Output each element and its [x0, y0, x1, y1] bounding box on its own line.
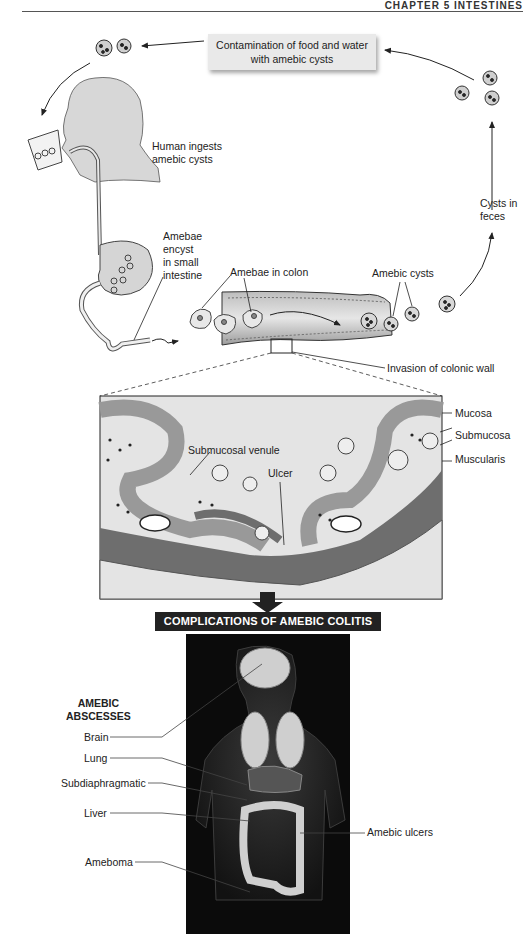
- label-ulcer: Ulcer: [268, 467, 293, 480]
- human-head-silhouette: [62, 77, 160, 182]
- label-amebic-ulcers: Amebic ulcers: [367, 826, 433, 839]
- label-line: Amebae: [163, 230, 202, 243]
- label-line: intestine: [163, 269, 202, 282]
- label-amebae-in-colon: Amebae in colon: [230, 266, 308, 279]
- cyst-group-top-right: [455, 71, 499, 105]
- zoom-box: [271, 339, 292, 353]
- heading-line: AMEBIC: [66, 697, 131, 710]
- label-invasion: Invasion of colonic wall: [387, 362, 494, 375]
- label-submucosal-venule: Submucosal venule: [188, 444, 280, 457]
- label-liver: Liver: [84, 807, 107, 820]
- label-line: feces: [480, 210, 517, 223]
- heading-line: ABSCESSES: [66, 710, 131, 723]
- cyst-group-top-left: [96, 39, 131, 56]
- stomach: [98, 241, 152, 295]
- drinking-glass: [28, 130, 62, 170]
- abscesses-heading: AMEBIC ABSCESSES: [66, 697, 131, 723]
- body-illustration: [186, 634, 350, 934]
- label-line: Cysts in: [480, 197, 517, 210]
- contamination-line-2: with amebic cysts: [208, 52, 376, 66]
- diagram-graphics: [0, 0, 523, 939]
- label-line: in small: [163, 256, 202, 269]
- label-amebic-cysts: Amebic cysts: [372, 267, 434, 280]
- label-ameboma: Ameboma: [85, 856, 133, 869]
- label-submucosa: Submucosa: [455, 429, 510, 442]
- label-brain: Brain: [84, 731, 109, 744]
- label-line: encyst: [163, 243, 202, 256]
- label-muscularis: Muscularis: [455, 453, 505, 466]
- contamination-line-1: Contamination of food and water: [208, 38, 376, 52]
- label-human-ingests: Human ingests amebic cysts: [152, 140, 222, 166]
- label-subdiaphragmatic: Subdiaphragmatic: [61, 777, 146, 790]
- complications-banner: COMPLICATIONS OF AMEBIC COLITIS: [155, 612, 381, 631]
- label-encyst: Amebae encyst in small intestine: [163, 230, 202, 282]
- label-line: amebic cysts: [152, 153, 222, 166]
- label-mucosa: Mucosa: [455, 407, 492, 420]
- label-lung: Lung: [84, 752, 107, 765]
- cross-section-panel: [100, 396, 452, 599]
- label-line: Human ingests: [152, 140, 222, 153]
- contamination-callout: Contamination of food and water with ame…: [208, 34, 376, 70]
- label-cysts-in-feces: Cysts in feces: [480, 197, 517, 223]
